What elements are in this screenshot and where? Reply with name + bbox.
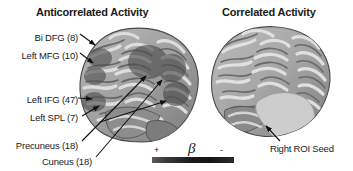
panel-title-anticorrelated: Anticorrelated Activity [36,6,148,18]
roi-label-left-mfg: Left MFG (10) [21,50,78,61]
roi-label-cuneus: Cuneus (18) [42,156,92,167]
colorbar-negative-sign: - [220,145,223,155]
roi-label-precuneus: Precuneus (18) [16,140,78,151]
panel-title-correlated: Correlated Activity [222,6,316,18]
colorbar-beta-symbol: β [188,140,195,157]
colorbar: + β - [150,142,236,166]
figure-container: Anticorrelated Activity Correlated Activ… [0,0,353,171]
roi-label-bi-dfg: Bi DFG (8) [35,32,78,43]
activation-left-ifg [82,92,106,112]
roi-label-left-ifg: Left IFG (47) [27,94,78,105]
colorbar-gradient-bar [152,157,234,163]
activation-left-mfg [84,67,106,85]
colorbar-positive-sign: + [154,145,159,155]
activation-bi-dfg [88,48,112,68]
brain-render-correlated [205,22,335,150]
roi-label-right-roi-seed: Right ROI Seed [270,143,334,154]
brain-render-anticorrelated [76,24,204,154]
activation-precuneus [158,54,186,82]
roi-label-left-spl: Left SPL (7) [30,112,78,123]
activation-cuneus [163,82,189,106]
